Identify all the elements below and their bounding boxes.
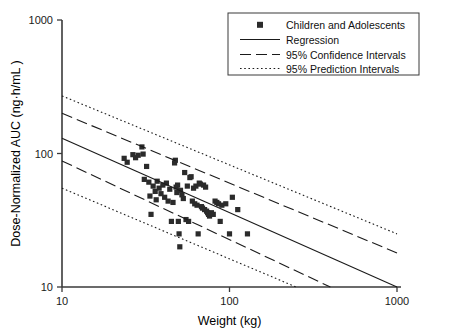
data-point — [218, 219, 223, 224]
y-tick-label-1000: 1000 — [29, 14, 53, 26]
data-point — [144, 164, 149, 169]
data-point — [176, 231, 181, 236]
data-point — [169, 219, 174, 224]
figure-container: 101001000101001000 Weight (kg)Dose-Norma… — [0, 0, 449, 330]
chart-legend: Children and AdolescentsRegression95% Co… — [228, 13, 419, 75]
data-point — [196, 231, 201, 236]
data-point — [185, 183, 190, 188]
data-point — [148, 212, 153, 217]
legend-label-2: 95% Confidence Intervals — [286, 49, 406, 61]
data-point — [125, 160, 130, 165]
x-axis-title: Weight (kg) — [198, 314, 262, 328]
data-point — [151, 183, 156, 188]
data-point — [227, 231, 232, 236]
data-point — [189, 174, 194, 179]
data-point — [175, 182, 180, 187]
data-point — [154, 197, 159, 202]
legend-label-1: Regression — [286, 34, 339, 46]
data-point — [176, 219, 181, 224]
data-point — [235, 207, 240, 212]
legend-label-0: Children and Adolescents — [286, 19, 405, 31]
y-tick-label-100: 100 — [35, 148, 53, 160]
data-point — [147, 193, 152, 198]
data-point — [142, 177, 147, 182]
legend-label-3: 95% Prediction Intervals — [286, 63, 399, 75]
y-tick-label-10: 10 — [41, 281, 53, 293]
data-point — [182, 170, 187, 175]
y-axis-title: Dose-Normalized AUC (ng·h/mL ) — [9, 60, 23, 246]
data-point — [211, 212, 216, 217]
x-tick-label-1000: 1000 — [385, 295, 409, 307]
data-point — [170, 200, 175, 205]
x-tick-label-100: 100 — [220, 295, 238, 307]
data-point — [141, 151, 146, 156]
data-point — [230, 195, 235, 200]
legend-marker-icon — [257, 22, 263, 28]
data-point — [166, 198, 171, 203]
data-point — [181, 196, 186, 201]
scatter-chart: 101001000101001000 Weight (kg)Dose-Norma… — [0, 0, 449, 330]
data-point — [245, 231, 250, 236]
x-tick-label-10: 10 — [56, 295, 68, 307]
data-point — [177, 244, 182, 249]
data-point — [136, 153, 141, 158]
data-point — [203, 185, 208, 190]
data-point — [223, 201, 228, 206]
